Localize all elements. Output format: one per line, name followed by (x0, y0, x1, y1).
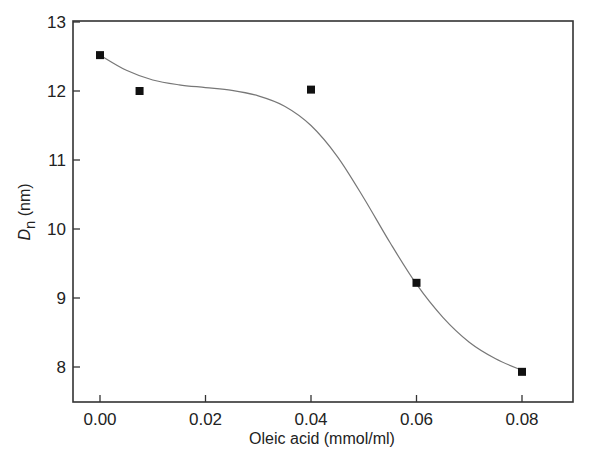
chart: 8910111213 0.000.020.040.060.08 Oleic ac… (0, 0, 590, 469)
fit-curve (100, 55, 522, 370)
x-tick-label: 0.04 (294, 410, 327, 429)
y-axis-title-unit: (nm) (16, 183, 33, 220)
x-tick-label: 0.00 (83, 410, 116, 429)
x-tick-label: 0.08 (505, 410, 538, 429)
x-tick-label: 0.02 (189, 410, 222, 429)
y-axis-title: Dn (nm) (16, 183, 38, 240)
data-point-square (136, 87, 144, 95)
x-tick-label: 0.06 (400, 410, 433, 429)
data-point-square (307, 86, 315, 94)
fit-curve-path (100, 55, 522, 370)
y-tick-label: 13 (47, 13, 66, 32)
x-axis-title: Oleic acid (mmol/ml) (249, 430, 395, 447)
y-axis: 8910111213 (47, 13, 80, 377)
x-axis: 0.000.020.040.060.08 (83, 395, 538, 429)
y-tick-label: 11 (48, 151, 66, 170)
data-point-square (413, 279, 421, 287)
y-axis-title-main: D (16, 229, 33, 241)
y-tick-label: 9 (57, 289, 66, 308)
y-axis-title-subscript: n (21, 221, 38, 229)
data-point-square (518, 368, 526, 376)
y-tick-label: 10 (47, 220, 66, 239)
y-tick-label: 12 (47, 82, 66, 101)
data-points (96, 51, 526, 376)
data-point-square (96, 51, 104, 59)
y-tick-label: 8 (57, 358, 66, 377)
